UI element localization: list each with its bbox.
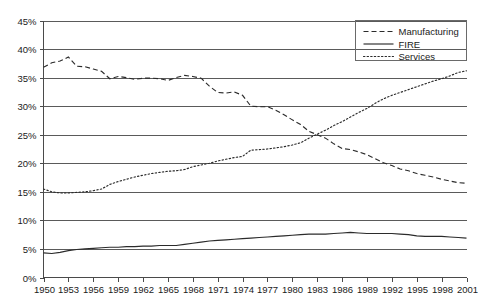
x-tick-label: 1965 (158, 284, 179, 295)
x-tick-label: 1986 (332, 284, 353, 295)
y-tick-label: 5% (23, 244, 37, 255)
y-tick-label: 30% (17, 101, 37, 112)
data-series (44, 57, 467, 253)
y-tick-label: 35% (17, 73, 37, 84)
y-tick-label: 20% (17, 158, 37, 169)
series-line-fire (44, 232, 467, 253)
chart-canvas: 0%5%10%15%20%25%30%35%40%45% 19501953195… (0, 0, 478, 304)
legend-label-services: Services (399, 51, 436, 62)
x-tick-label: 1980 (282, 284, 303, 295)
y-tick-label: 0% (23, 273, 37, 284)
x-tick-label: 1974 (233, 284, 254, 295)
x-tick-label: 1983 (307, 284, 328, 295)
y-tick-label: 40% (17, 44, 37, 55)
x-tick-label: 1950 (34, 284, 55, 295)
x-tick-label: 1977 (257, 284, 278, 295)
y-axis-tick-labels: 0%5%10%15%20%25%30%35%40%45% (17, 16, 43, 284)
series-line-services (44, 71, 467, 193)
legend-label-manufacturing: Manufacturing (399, 26, 459, 37)
x-tick-label: 1968 (183, 284, 204, 295)
y-tick-label: 25% (17, 130, 37, 141)
x-axis-tick-labels: 1950195319561959196219651968197119741977… (34, 278, 478, 295)
x-tick-label: 1953 (58, 284, 79, 295)
x-tick-label: 1971 (208, 284, 229, 295)
x-tick-label: 1992 (382, 284, 403, 295)
x-tick-label: 1989 (357, 284, 378, 295)
legend-label-fire: FIRE (399, 39, 421, 50)
x-tick-label: 1956 (83, 284, 104, 295)
x-tick-label: 2001 (457, 284, 478, 295)
y-tick-label: 10% (17, 215, 37, 226)
x-tick-label: 1995 (407, 284, 428, 295)
employment-share-line-chart: 0%5%10%15%20%25%30%35%40%45% 19501953195… (0, 0, 478, 304)
x-tick-label: 1998 (432, 284, 453, 295)
y-tick-label: 45% (17, 16, 37, 27)
series-line-manufacturing (44, 57, 467, 183)
x-tick-label: 1959 (108, 284, 129, 295)
x-tick-label: 1962 (133, 284, 154, 295)
chart-legend: ManufacturingFIREServices (356, 21, 467, 63)
y-tick-label: 15% (17, 187, 37, 198)
